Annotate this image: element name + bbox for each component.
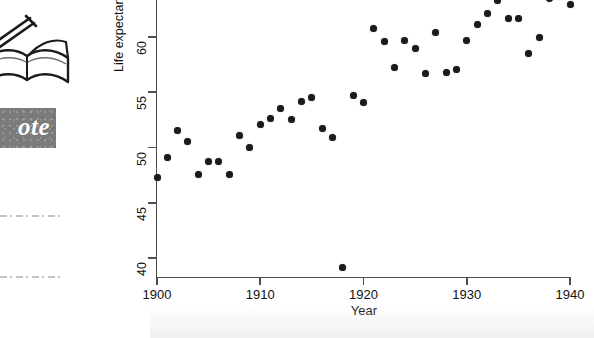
scatter-point: [546, 0, 553, 2]
y-tick: [148, 91, 156, 93]
x-tick: [363, 277, 365, 285]
x-tick-label: 1940: [556, 287, 585, 302]
scatter-point: [401, 37, 408, 44]
scatter-point: [525, 50, 532, 57]
scatter-point: [329, 134, 336, 141]
x-tick-label: 1920: [349, 287, 378, 302]
scatter-point: [412, 45, 419, 52]
scatter-point: [195, 171, 202, 178]
scatter-point: [257, 121, 264, 128]
y-tick-label: 55: [135, 91, 149, 115]
scatter-point: [226, 171, 233, 178]
scatter-point: [350, 92, 357, 99]
scatter-point: [370, 25, 377, 32]
scatter-point: [174, 127, 181, 134]
scatter-point: [267, 115, 274, 122]
scatter-point: [246, 144, 253, 151]
scatter-points-layer: [156, 0, 571, 278]
y-tick: [148, 202, 156, 204]
y-tick: [148, 257, 156, 259]
scatter-point: [422, 70, 429, 77]
x-axis-title: Year: [351, 303, 377, 318]
scatter-point: [319, 125, 326, 132]
y-tick-label: 60: [135, 36, 149, 60]
x-tick-label: 1930: [452, 287, 481, 302]
y-axis-title: Life expectancy: [112, 0, 126, 72]
scatter-point: [184, 138, 191, 145]
scatter-point: [298, 98, 305, 105]
scatter-point: [277, 105, 284, 112]
life-expectancy-scatter-chart: 4045505560 19001910192019301940 Life exp…: [0, 0, 594, 338]
scatter-point: [154, 174, 161, 181]
scatter-point: [474, 21, 481, 28]
scatter-point: [536, 34, 543, 41]
x-tick-label: 1910: [246, 287, 275, 302]
scatter-point: [443, 69, 450, 76]
x-tick: [259, 277, 261, 285]
scatter-point: [339, 264, 346, 271]
scatter-point: [360, 99, 367, 106]
scatter-point: [164, 154, 171, 161]
x-tick: [466, 277, 468, 285]
x-tick: [156, 277, 158, 285]
y-tick: [148, 147, 156, 149]
scatter-point: [463, 37, 470, 44]
scatter-point: [205, 158, 212, 165]
scatter-point: [236, 132, 243, 139]
scatter-point: [391, 64, 398, 71]
scanned-page: ote 4045505560 19001910192019301940 Life…: [0, 0, 594, 338]
scatter-point: [505, 15, 512, 22]
y-tick-label: 50: [135, 147, 149, 171]
scatter-point: [215, 158, 222, 165]
scatter-point: [308, 94, 315, 101]
y-tick: [148, 36, 156, 38]
scatter-point: [494, 0, 501, 4]
scatter-point: [567, 1, 574, 8]
scatter-point: [432, 29, 439, 36]
scatter-point: [484, 10, 491, 17]
x-tick-label: 1900: [143, 287, 172, 302]
scatter-point: [288, 116, 295, 123]
y-tick-label: 40: [135, 257, 149, 281]
scatter-point: [381, 38, 388, 45]
scatter-point: [453, 66, 460, 73]
y-tick-label: 45: [135, 202, 149, 226]
x-tick: [569, 277, 571, 285]
scatter-point: [515, 15, 522, 22]
